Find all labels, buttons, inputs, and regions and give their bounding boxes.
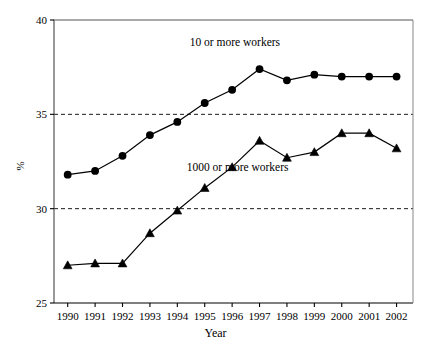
y-tick-label: 30 xyxy=(36,203,48,215)
x-tick-label: 1996 xyxy=(221,310,244,322)
series-line xyxy=(68,133,397,265)
data-point-marker xyxy=(365,73,373,81)
x-tick-label: 1998 xyxy=(276,310,299,322)
data-point-marker xyxy=(283,76,291,84)
data-point-marker xyxy=(310,148,319,156)
x-tick-label: 1994 xyxy=(166,310,189,322)
x-tick-label: 1990 xyxy=(57,310,80,322)
x-tick-label: 1993 xyxy=(139,310,162,322)
x-tick-label: 1991 xyxy=(84,310,106,322)
series-line xyxy=(68,69,397,175)
chart-figure: % Year 25303540 199019911992199319941995… xyxy=(0,0,431,349)
x-tick-label: 1997 xyxy=(249,310,272,322)
x-tick-label: 1999 xyxy=(303,310,326,322)
data-point-marker xyxy=(228,86,236,94)
y-tick-label: 35 xyxy=(36,108,48,120)
x-axis-ticks: 1990199119921993199419951996199719981999… xyxy=(57,303,408,322)
x-tick-label: 2000 xyxy=(331,310,354,322)
x-tick-label: 2002 xyxy=(386,310,408,322)
data-point-marker xyxy=(91,167,99,175)
data-point-marker xyxy=(392,144,401,152)
data-point-marker xyxy=(200,184,209,192)
data-point-marker xyxy=(201,99,209,107)
series-label: 1000 or more workers xyxy=(187,161,289,173)
line-chart-plot: 25303540 1990199119921993199419951996199… xyxy=(0,0,431,349)
data-point-marker xyxy=(146,131,154,139)
data-point-marker xyxy=(173,118,181,126)
data-point-marker xyxy=(64,171,72,179)
data-point-marker xyxy=(256,65,264,73)
y-tick-label: 40 xyxy=(36,14,48,26)
x-tick-label: 1992 xyxy=(112,310,134,322)
data-point-marker xyxy=(310,71,318,79)
series-label: 10 or more workers xyxy=(190,36,281,48)
data-point-marker xyxy=(255,136,264,144)
data-point-marker xyxy=(338,73,346,81)
x-tick-label: 2001 xyxy=(358,310,380,322)
data-point-marker xyxy=(119,152,127,160)
y-tick-label: 25 xyxy=(36,297,48,309)
x-tick-label: 1995 xyxy=(194,310,217,322)
data-point-marker xyxy=(393,73,401,81)
y-axis-ticks: 25303540 xyxy=(36,14,54,309)
